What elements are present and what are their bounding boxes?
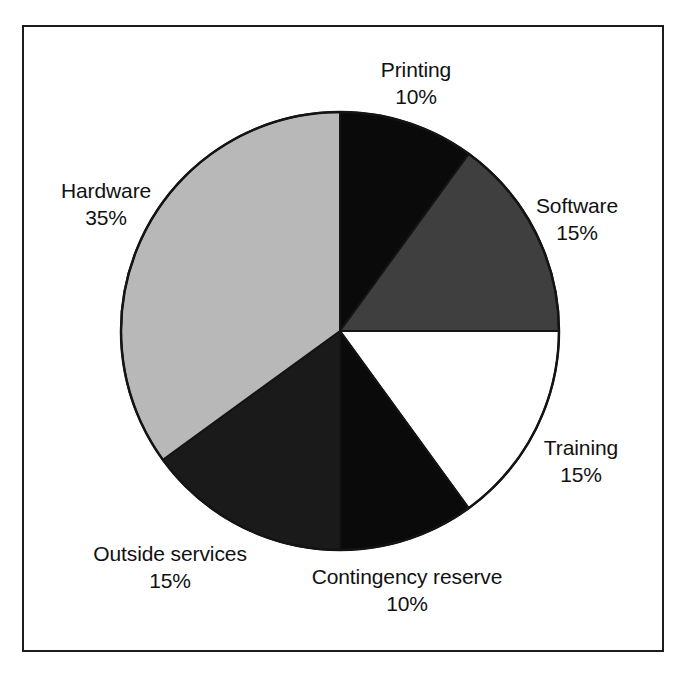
- pie-label-hardware-value: 35%: [6, 204, 206, 231]
- pie-label-contingency-reserve: Contingency reserve 10%: [276, 563, 538, 617]
- pie-label-outside-services-value: 15%: [52, 567, 288, 594]
- pie-label-contingency-reserve-value: 10%: [276, 590, 538, 617]
- pie-label-software-value: 15%: [482, 219, 672, 246]
- pie-label-software-name: Software: [482, 192, 672, 219]
- pie-label-printing-value: 10%: [316, 83, 516, 110]
- pie-label-hardware: Hardware 35%: [6, 177, 206, 231]
- pie-label-contingency-reserve-name: Contingency reserve: [276, 563, 538, 590]
- pie-label-hardware-name: Hardware: [6, 177, 206, 204]
- pie-label-outside-services: Outside services 15%: [52, 540, 288, 594]
- pie-label-outside-services-name: Outside services: [52, 540, 288, 567]
- pie-label-training: Training 15%: [490, 434, 672, 488]
- pie-label-printing-name: Printing: [316, 56, 516, 83]
- pie-label-training-name: Training: [490, 434, 672, 461]
- figure-root: Printing 10% Software 15% Training 15% C…: [0, 0, 682, 675]
- pie-label-printing: Printing 10%: [316, 56, 516, 110]
- pie-label-training-value: 15%: [490, 461, 672, 488]
- pie-label-software: Software 15%: [482, 192, 672, 246]
